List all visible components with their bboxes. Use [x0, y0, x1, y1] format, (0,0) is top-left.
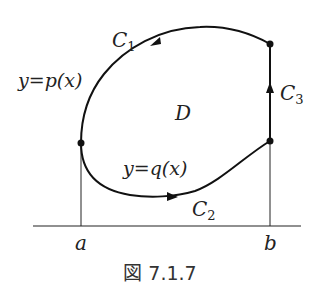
label-c3: C3 [280, 81, 304, 107]
figure-caption: 図 7.1.7 [123, 262, 196, 284]
diagram-canvas: C1 y=p(x) D C3 y=q(x) C2 a b 図 7.1.7 [0, 0, 322, 299]
label-c2: C2 [192, 197, 216, 223]
label-p-equation: y=p(x) [17, 69, 82, 91]
label-region-d: D [174, 101, 191, 125]
arrow-c3-icon [266, 82, 274, 93]
arrow-c2-icon [167, 192, 178, 201]
point-b-bottom-dot [267, 138, 274, 145]
label-a: a [75, 231, 87, 255]
label-c1: C1 [112, 28, 136, 54]
point-b-top-dot [267, 41, 274, 48]
curve-c1 [81, 27, 270, 143]
label-q-equation: y=q(x) [122, 157, 187, 179]
point-a-dot [78, 140, 85, 147]
label-b: b [264, 231, 277, 255]
